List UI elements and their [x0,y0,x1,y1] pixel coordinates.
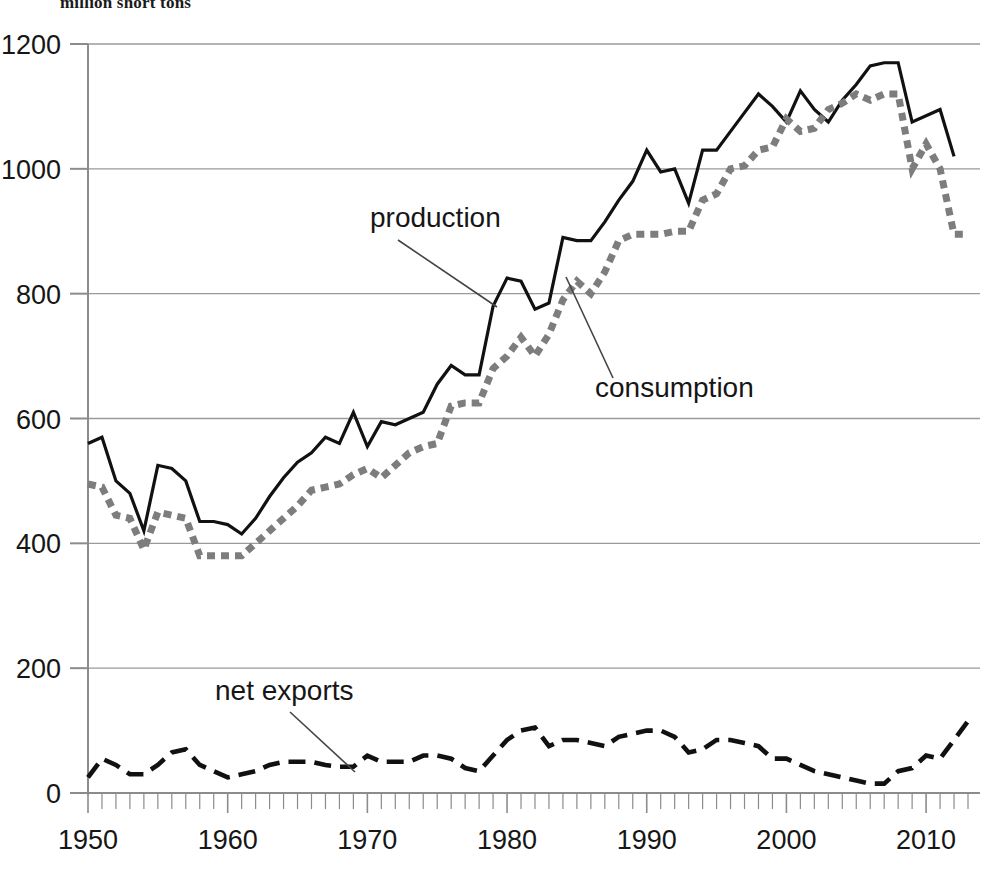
x-minor-ticks [88,793,968,813]
y-tick-label: 1000 [1,155,61,185]
annotation-label-consumption: consumption [595,372,754,403]
y-tick-label: 200 [16,654,61,684]
series-line-net-exports [88,721,968,783]
y-tick-label: 0 [46,779,61,809]
y-tick-labels: 020040060080010001200 [1,30,61,809]
y-tick-label: 600 [16,405,61,435]
x-tick-labels: 1950196019701980199020002010 [58,825,956,855]
x-tick-label: 1990 [617,825,677,855]
gridlines [88,44,980,668]
x-tick-label: 2000 [756,825,816,855]
series-line-consumption [88,94,968,556]
annotation-label-production: production [370,202,501,233]
y-tick-label: 400 [16,529,61,559]
x-tick-label: 1950 [58,825,118,855]
y-tick-label: 1200 [1,30,61,60]
x-tick-label: 1970 [337,825,397,855]
x-tick-label: 2010 [896,825,956,855]
x-tick-label: 1980 [477,825,537,855]
x-tick-label: 1960 [198,825,258,855]
axes [70,44,980,795]
chart-plot-area: 020040060080010001200 195019601970198019… [0,0,998,886]
coal-production-consumption-chart: million short tons 020040060080010001200… [0,0,998,886]
annotation-label-net-exports: net exports [215,675,354,706]
y-tick-label: 800 [16,280,61,310]
leader-line-production [398,240,497,307]
series-line-production [88,63,954,534]
